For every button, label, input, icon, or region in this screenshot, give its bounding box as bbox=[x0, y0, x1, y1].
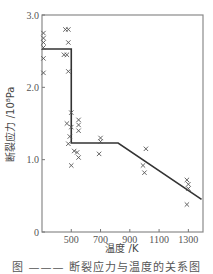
data-point-x-marker bbox=[142, 170, 146, 174]
y-tick-label: 0 bbox=[34, 227, 39, 238]
data-point-x-marker bbox=[69, 163, 73, 167]
data-point-x-marker bbox=[66, 69, 70, 73]
data-point-x-marker bbox=[76, 155, 80, 159]
figure-caption: 图 ——— 断裂应力与温度的关系图 bbox=[0, 258, 213, 274]
data-point-x-marker bbox=[185, 202, 189, 206]
data-point-x-marker bbox=[66, 27, 70, 31]
x-axis-label: 温度 /K bbox=[105, 242, 139, 254]
y-tick-label: 3.0 bbox=[27, 10, 40, 21]
data-point-x-marker bbox=[185, 178, 189, 182]
data-point-x-marker bbox=[66, 40, 70, 44]
y-axis-label: 断裂应力 /10⁸Pa bbox=[4, 87, 16, 162]
data-point-x-marker bbox=[76, 123, 80, 127]
x-tick-label: 1100 bbox=[149, 234, 169, 245]
data-point-x-marker bbox=[65, 121, 69, 125]
data-point-x-marker bbox=[76, 118, 80, 122]
data-point-x-marker bbox=[66, 142, 70, 146]
y-tick-label: 2.0 bbox=[27, 82, 40, 93]
chart: 01.02.03.0 50070090011001300 温度 /K 断裂应力 … bbox=[0, 0, 213, 258]
data-point-x-marker bbox=[186, 182, 190, 186]
data-point-x-marker bbox=[141, 163, 145, 167]
plot-frame bbox=[42, 15, 203, 232]
x-tick-label: 500 bbox=[64, 234, 79, 245]
data-point-x-marker bbox=[76, 129, 80, 133]
y-tick-label: 1.0 bbox=[27, 154, 40, 165]
data-point-x-marker bbox=[65, 53, 69, 57]
x-tick-label: 1300 bbox=[178, 234, 198, 245]
plot-border bbox=[42, 15, 203, 232]
data-point-x-marker bbox=[144, 147, 148, 151]
data-point-x-marker bbox=[97, 152, 101, 156]
data-points bbox=[41, 27, 190, 206]
